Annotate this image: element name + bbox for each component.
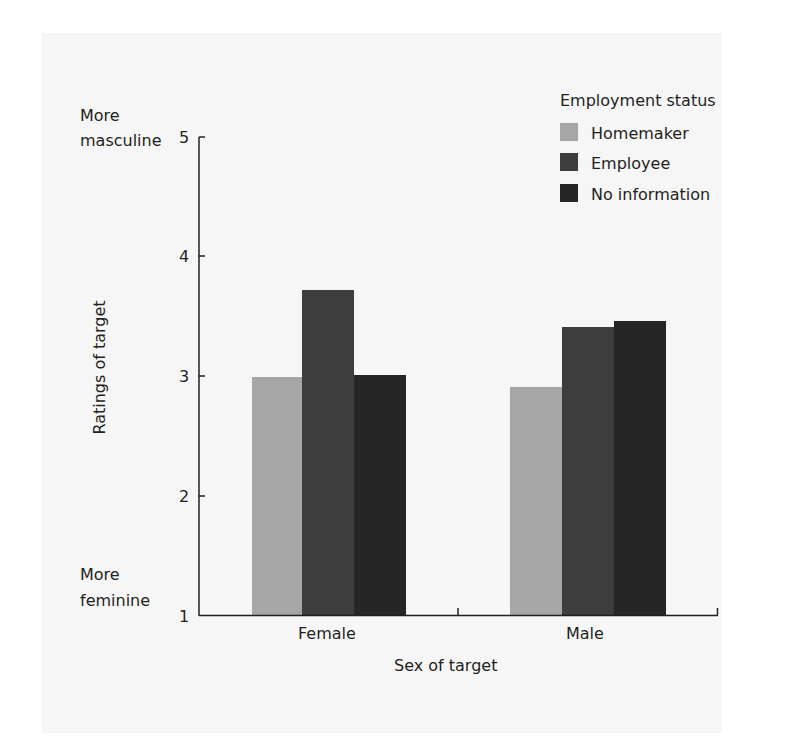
- x-axis-label: Sex of target: [394, 656, 497, 675]
- x-category-male: Male: [566, 624, 604, 643]
- legend-label-no-information: No information: [591, 185, 710, 204]
- legend-swatch-employee: [560, 153, 578, 171]
- legend-label-employee: Employee: [591, 154, 670, 173]
- x-category-female: Female: [298, 624, 356, 643]
- legend-swatch-no-information: [560, 184, 578, 202]
- axes: [0, 0, 799, 752]
- legend-label-homemaker: Homemaker: [591, 124, 689, 143]
- legend-swatch-homemaker: [560, 123, 578, 141]
- legend-title: Employment status: [560, 91, 716, 110]
